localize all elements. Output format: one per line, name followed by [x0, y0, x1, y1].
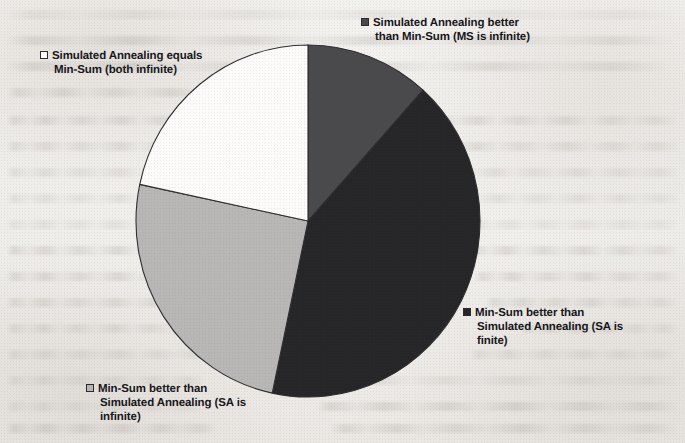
pie-label-sa-equals-minsum: Simulated Annealing equals Min-Sum (both…: [40, 49, 255, 77]
pie-label-sa-equals-text-wrap: Simulated Annealing equals Min-Sum (both…: [40, 49, 255, 77]
pie-label-minsum-finite-text-wrap: Min-Sum better than Simulated Annealing …: [463, 306, 653, 349]
pie-label-minsum-better-sa-finite: Min-Sum better than Simulated Annealing …: [463, 306, 653, 349]
pie-label-sa-better-text: Simulated Annealing better than Min-Sum …: [373, 17, 530, 43]
pie-label-minsum-infinite-text: Min-Sum better than Simulated Annealing …: [98, 383, 246, 423]
legend-swatch-sa-equals: [40, 51, 48, 59]
pie-label-minsum-finite-text: Min-Sum better than Simulated Annealing …: [475, 307, 623, 347]
pie-label-sa-better-text-wrap: Simulated Annealing better than Min-Sum …: [361, 16, 571, 44]
pie-slice-group: [136, 45, 480, 397]
pie-label-minsum-better-sa-infinite: Min-Sum better than Simulated Annealing …: [86, 382, 286, 425]
pie-label-minsum-infinite-text-wrap: Min-Sum better than Simulated Annealing …: [86, 382, 286, 425]
legend-swatch-minsum-finite: [463, 308, 471, 316]
legend-swatch-sa-better: [361, 18, 369, 26]
legend-swatch-minsum-infinite: [86, 384, 94, 392]
pie-label-sa-better-than-minsum: Simulated Annealing better than Min-Sum …: [361, 16, 571, 44]
pie-label-sa-equals-text: Simulated Annealing equals Min-Sum (both…: [52, 50, 202, 76]
